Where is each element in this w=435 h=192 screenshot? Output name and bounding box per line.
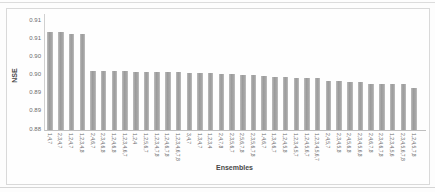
bar [112,71,118,130]
bar [294,78,300,130]
x-tick-label: 3,4,7 [185,133,192,175]
bar [304,78,310,130]
x-tick-label: 1,3,4,7 [196,133,203,175]
x-tick-label: 1,2,3,4,5,6,7 [313,133,320,175]
x-tick-label: 1,2,4,6,8 [110,133,117,175]
x-tick-label: 1,2,4,7 [67,133,74,175]
bar [219,74,225,130]
bar [368,84,374,131]
bar [379,84,385,130]
bar [133,72,139,131]
x-tick-label: 1,2,5,6,7 [142,133,149,175]
bar [144,72,150,130]
y-tick-label: 0.91 [11,35,41,42]
x-tick-label: 2,3,5,6,7 [228,133,235,175]
plot-area [44,14,426,131]
x-tick-label: 2,3,4,6,7,8 [377,133,384,175]
bar [401,84,407,130]
x-tick-label: 1,2,3,4,6,7 [121,133,128,175]
bar [336,81,342,130]
x-tick-label: 2,3,4,5,6,8 [356,133,363,175]
bar [154,72,160,130]
y-tick-label: 0.89 [11,89,41,96]
bar [261,76,267,130]
bar [58,32,64,130]
bar [229,74,235,130]
x-tick-label: 1,2,4 [131,133,138,175]
bar [326,81,332,130]
bar [390,84,396,130]
y-tick-label: 0.90 [11,53,41,60]
x-tick-label: 1,3,4,6,7 [270,133,277,175]
page-edge-line-bottom [0,187,435,188]
bar [69,34,75,130]
x-tick-label: 1,4,6,7 [260,133,267,175]
bar [187,73,193,130]
x-tick-label: 2,4,5,7 [324,133,331,175]
bar [272,77,278,130]
x-tick-label: 1,2,3,4,6,7,8 [174,133,181,175]
x-tick-label: 1,4,7 [46,133,53,175]
bar [240,75,246,130]
y-tick-label: 0.89 [11,107,41,114]
bar [80,34,86,130]
x-tick-label: 1,2,3,4,5,7 [292,133,299,175]
x-tick-label: 2,4,6,7 [89,133,96,175]
x-tick-label: 1,2,3,4,7,8 [153,133,160,175]
bar [315,78,321,130]
bar [358,82,364,130]
x-tick-label: 1,2,3,4,8 [78,133,85,175]
x-tick-label: 2,3,4,6,8 [99,133,106,175]
x-tick-label: 1,2,4,5,6,7 [303,133,310,175]
bar [197,73,203,130]
bar [47,32,53,130]
x-tick-label: 2,5,6,7,8 [238,133,245,175]
x-tick-label: 1,2,4,5,8 [281,133,288,175]
x-tick-label: 2,3,4,5,8 [335,133,342,175]
x-tick-label: 2,4,7,8 [217,133,224,175]
bar [90,71,96,130]
bar [208,73,214,130]
y-tick-label: 0.91 [11,17,41,24]
bar [347,82,353,130]
x-tick-label: 1,2,4,5,7,8 [410,133,417,175]
page-edge-line-top [0,2,435,3]
x-tick-label: 1,2,3,4,5,6 [388,133,395,175]
bar [101,71,107,130]
figure: NSE Ensembles 1,4,72,3,4,71,2,4,71,2,3,4… [0,0,435,192]
y-tick-label: 0.90 [11,71,41,78]
bar [283,77,289,130]
x-tick-label: 2,3,4,5,6,7,8 [399,133,406,175]
x-tick-label: 1,2,3,4 [206,133,213,175]
x-tick-label: 2,3,4,7 [56,133,63,175]
bar [411,88,417,130]
x-tick-label: 2,4,5,6,8 [345,133,352,175]
x-tick-label: 2,4,6,7,8 [367,133,374,175]
x-tick-label: 2,3,5,6,7,8 [249,133,256,175]
bar [251,75,257,130]
y-tick-label: 0.88 [11,126,41,133]
bar [176,72,182,130]
bar [165,72,171,130]
bar [122,71,128,130]
x-tick-label: 1,2,4,6,7,8 [163,133,170,175]
